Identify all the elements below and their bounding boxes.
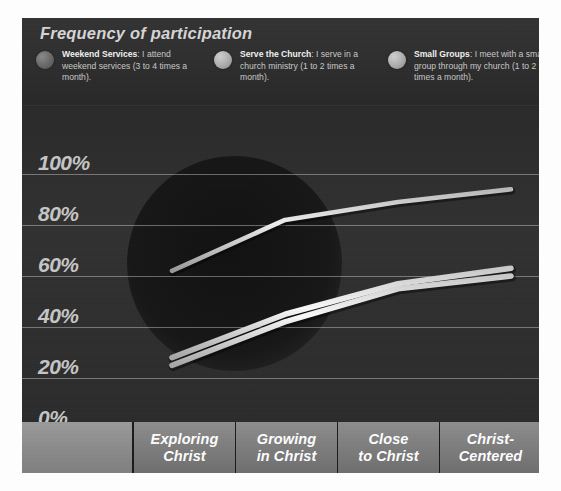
category-cell-3[interactable]: Close to Christ — [338, 422, 439, 473]
series-line-weekend-services — [172, 189, 511, 271]
legend-dot-small-groups-icon — [388, 51, 406, 69]
chart-screenshot: Frequency of participation Weekend Servi… — [0, 0, 561, 491]
legend-text-weekend-services: Weekend Services: I attend weekend servi… — [62, 49, 206, 84]
chart-panel: Frequency of participation Weekend Servi… — [22, 18, 539, 473]
legend-item-weekend-services: Weekend Services: I attend weekend servi… — [36, 49, 206, 103]
legend-dot-weekend-services-icon — [36, 51, 54, 69]
category-cell-1[interactable]: Exploring Christ — [134, 422, 235, 473]
category-cell-spacer — [22, 422, 132, 473]
legend-item-small-groups: Small Groups: I meet with a small group … — [388, 49, 539, 103]
category-label-4: Christ- Centered — [459, 431, 523, 465]
series-shadow-3 — [173, 278, 512, 367]
plot-area: 100%80%60%40%20%0% — [22, 107, 539, 417]
category-label-2: Growing in Christ — [257, 431, 317, 465]
legend-name-serve-the-church: Serve the Church — [240, 49, 311, 59]
category-label-3: Close to Christ — [358, 431, 419, 465]
legend-name-small-groups: Small Groups — [414, 49, 470, 59]
category-label-1: Exploring Christ — [151, 431, 219, 465]
legend-text-small-groups: Small Groups: I meet with a small group … — [414, 49, 539, 84]
series-lines — [22, 107, 539, 417]
category-axis-bar: Exploring ChristGrowing in ChristClose t… — [22, 422, 539, 473]
legend-text-serve-the-church: Serve the Church: I serve in a church mi… — [240, 49, 384, 84]
series-shadow-1 — [173, 191, 512, 273]
category-cell-2[interactable]: Growing in Christ — [236, 422, 337, 473]
legend-zone: Frequency of participation Weekend Servi… — [22, 18, 539, 105]
legend-item-serve-the-church: Serve the Church: I serve in a church mi… — [214, 49, 384, 103]
legend: Weekend Services: I attend weekend servi… — [36, 49, 534, 103]
legend-dot-serve-the-church-icon — [214, 51, 232, 69]
category-cell-4[interactable]: Christ- Centered — [440, 422, 539, 473]
chart-title: Frequency of participation — [40, 24, 252, 43]
legend-name-weekend-services: Weekend Services — [62, 49, 137, 59]
